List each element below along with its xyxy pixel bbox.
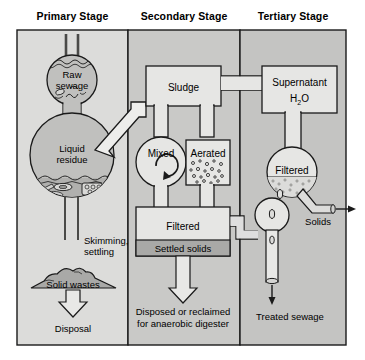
header-secondary-stage: Secondary Stage: [128, 10, 240, 22]
solid-wastes-label: Solid wastes: [46, 279, 100, 290]
supernatant-neck: [285, 111, 301, 150]
treated-sewage-tube: [266, 230, 278, 284]
header-tertiary-stage-label: Tertiary Stage: [258, 10, 329, 22]
secondary-filtered-label: Filtered: [166, 221, 199, 232]
sludge-label: Sludge: [168, 82, 200, 93]
mixed-tank: Mixed: [136, 137, 186, 187]
treated-sewage-label: Treated sewage: [256, 311, 324, 322]
sludge-box: Sludge: [146, 66, 221, 106]
liquid-residue-label-line1: Liquid: [59, 143, 84, 154]
solids-label: Solids: [305, 216, 331, 227]
raw-sewage-tank: Raw sewage: [47, 55, 97, 105]
header-primary-stage-label: Primary Stage: [37, 10, 109, 22]
tertiary-filtered-label: Filtered: [275, 165, 308, 176]
disposal-label: Disposal: [55, 323, 91, 334]
sludge-duct-left: [154, 104, 168, 137]
mixed-outlet-duct: [154, 185, 168, 208]
drip-valve-upper: [277, 190, 282, 199]
diagram-canvas: Primary Stage Secondary Stage Tertiary S…: [0, 0, 365, 360]
sewage-treatment-diagram: Raw sewage: [0, 0, 365, 360]
tertiary-collection-bulb: [255, 198, 289, 232]
supernatant-box: Supernatant H2O: [262, 66, 337, 113]
raw-sewage-label-line1: Raw: [62, 69, 81, 80]
sludge-to-supernatant-duct: [221, 76, 262, 90]
filtered-basin-secondary: Filtered Settled solids: [136, 207, 230, 256]
liquid-residue-label-line2: residue: [56, 154, 87, 165]
skimming-label-line2: settling: [84, 246, 114, 257]
aerated-tank: Aerated: [186, 140, 230, 185]
aerated-outlet-duct: [200, 184, 214, 208]
raw-sewage-label-line2: sewage: [56, 80, 89, 91]
skimming-label-line1: Skimming,: [84, 235, 128, 246]
disposed-label-line2: for anaerobic digester: [137, 318, 229, 329]
header-primary-stage: Primary Stage: [17, 10, 128, 22]
aerated-label: Aerated: [190, 148, 225, 159]
settled-solids-label: Settled solids: [155, 243, 212, 254]
sludge-duct-right: [200, 104, 214, 137]
disposed-label-line1: Disposed or reclaimed: [136, 306, 231, 317]
supernatant-label: Supernatant: [272, 77, 327, 88]
header-tertiary-stage: Tertiary Stage: [240, 10, 346, 22]
header-secondary-stage-label: Secondary Stage: [141, 10, 228, 22]
mixed-label: Mixed: [148, 148, 175, 159]
